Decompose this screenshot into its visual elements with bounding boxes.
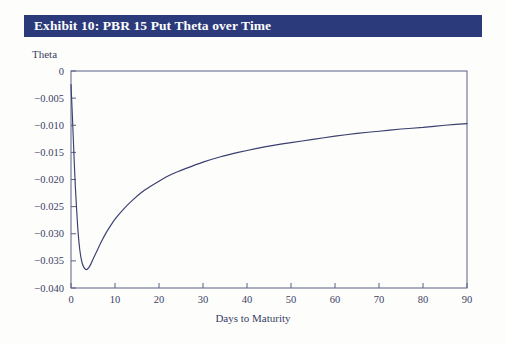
y-tick-label: −0.040 xyxy=(34,283,64,294)
y-tick-label: −0.035 xyxy=(34,255,64,266)
x-tick-label: 10 xyxy=(110,294,121,305)
x-tick-label: 60 xyxy=(330,294,341,305)
y-axis-ticks: 0−0.005−0.010−0.015−0.020−0.025−0.030−0.… xyxy=(34,66,76,294)
y-tick-label: 0 xyxy=(59,66,64,77)
y-tick-label: −0.010 xyxy=(34,120,64,131)
theta-curve xyxy=(71,85,467,270)
x-tick-label: 20 xyxy=(154,294,165,305)
plot-frame xyxy=(71,71,467,288)
x-tick-label: 50 xyxy=(286,294,297,305)
y-tick-label: −0.020 xyxy=(34,174,64,185)
y-tick-label: −0.005 xyxy=(34,93,64,104)
y-tick-label: −0.030 xyxy=(34,228,64,239)
x-tick-label: 30 xyxy=(198,294,209,305)
y-tick-label: −0.015 xyxy=(34,147,64,158)
y-tick-label: −0.025 xyxy=(34,201,64,212)
x-tick-label: 80 xyxy=(418,294,429,305)
x-tick-label: 0 xyxy=(68,294,73,305)
x-tick-label: 70 xyxy=(374,294,385,305)
chart-plot: 0−0.005−0.010−0.015−0.020−0.025−0.030−0.… xyxy=(0,0,506,344)
theta-line xyxy=(71,85,467,270)
x-tick-label: 40 xyxy=(242,294,253,305)
x-tick-label: 90 xyxy=(462,294,473,305)
x-axis-ticks: 0102030405060708090 xyxy=(68,283,472,305)
exhibit-figure: Exhibit 10: PBR 15 Put Theta over Time T… xyxy=(0,0,506,344)
